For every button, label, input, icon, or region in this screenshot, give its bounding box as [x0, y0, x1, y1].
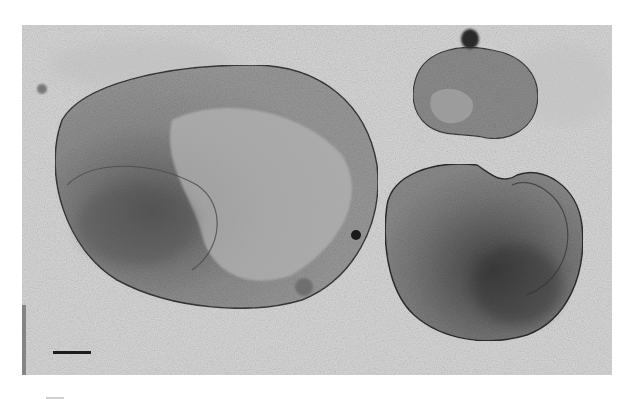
scale-bar: [53, 351, 91, 354]
micrograph-image: [22, 25, 612, 375]
